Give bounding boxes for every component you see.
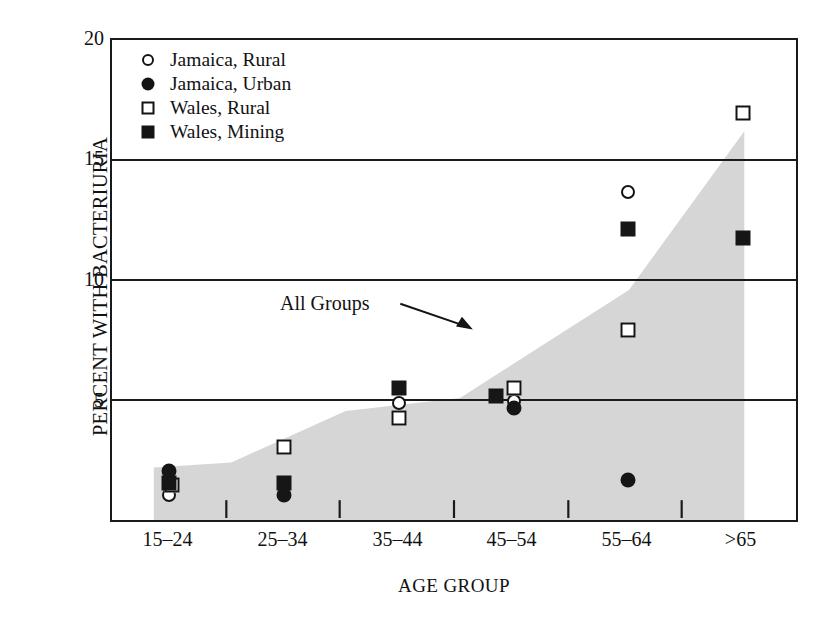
legend-item-jamaica-urban: Jamaica, Urban [137, 72, 397, 96]
y-tick-10: 10 [42, 269, 104, 289]
chart-figure: PERCENT WITH BACTERIURIA 20 15 10 5 [0, 0, 828, 621]
data-point-wales-rural-3544 [391, 410, 406, 425]
legend-label-wales-rural: Wales, Rural [170, 97, 270, 119]
y-tick-label-15: 15 [48, 148, 104, 168]
all-groups-arrow-head [456, 317, 473, 330]
data-point-wales-mining-2534 [277, 475, 292, 490]
all-groups-annotation-label: All Groups [280, 292, 369, 315]
plot-area: All Groups Jamaica, Rural Jamaica, Urban… [110, 38, 798, 522]
data-point-wales-mining-3544 [391, 381, 406, 396]
all-groups-shaded-band [154, 131, 745, 520]
data-point-wales-rural-5564 [621, 323, 636, 338]
x-tick-label-35-44: 35–44 [340, 528, 455, 550]
data-point-jamaica-urban-5564 [621, 473, 636, 488]
legend-item-jamaica-rural: Jamaica, Rural [137, 48, 397, 72]
y-tick-label-20: 20 [48, 28, 104, 48]
data-point-wales-rural-2534 [277, 439, 292, 454]
data-point-jamaica-rural-5564 [621, 185, 635, 199]
data-point-wales-rural-4554 [507, 381, 522, 396]
y-tick-20: 20 [42, 28, 104, 48]
y-tick-label-10: 10 [48, 269, 104, 289]
open-circle-icon [137, 49, 159, 71]
data-point-jamaica-urban-4554 [507, 400, 522, 415]
x-axis-title: AGE GROUP [110, 575, 798, 597]
data-point-wales-mining-5564 [621, 221, 636, 236]
data-point-wales-rural-65 [735, 105, 750, 120]
legend-label-wales-mining: Wales, Mining [170, 121, 284, 143]
x-tick-label-45-54: 45–54 [454, 528, 569, 550]
x-tick-label-55-64: 55–64 [569, 528, 684, 550]
filled-square-icon [137, 121, 159, 143]
filled-circle-icon [137, 73, 159, 95]
data-point-wales-mining-4554 [489, 388, 504, 403]
y-tick-15: 15 [42, 148, 104, 168]
y-tick-label-5: 5 [48, 390, 104, 410]
x-tick-label-over-65: >65 [683, 528, 798, 550]
x-tick-label-15-24: 15–24 [110, 528, 225, 550]
data-point-wales-mining-1524 [162, 475, 177, 490]
y-tick-5: 5 [42, 390, 104, 410]
legend-item-wales-rural: Wales, Rural [137, 96, 397, 120]
data-point-wales-mining-65 [735, 231, 750, 246]
legend-item-wales-mining: Wales, Mining [137, 120, 397, 144]
legend: Jamaica, Rural Jamaica, Urban Wales, Rur… [137, 48, 397, 144]
open-square-icon [137, 97, 159, 119]
data-point-jamaica-rural-3544 [392, 396, 406, 410]
x-tick-label-25-34: 25–34 [225, 528, 340, 550]
legend-label-jamaica-rural: Jamaica, Rural [170, 49, 286, 71]
legend-label-jamaica-urban: Jamaica, Urban [170, 73, 291, 95]
